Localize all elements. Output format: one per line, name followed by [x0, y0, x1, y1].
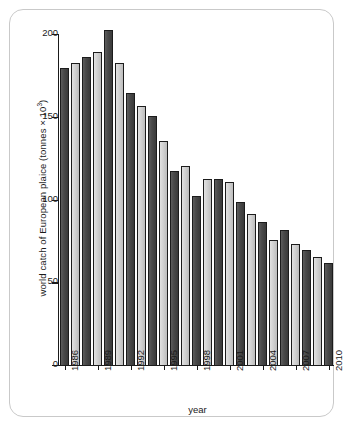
- x-tick-label: 2004: [267, 350, 278, 371]
- bar-chart: world catch of European plaice (tonnes ×…: [0, 0, 345, 435]
- bar: [159, 141, 168, 366]
- y-tick: 0: [20, 365, 58, 366]
- bars-container: [60, 20, 335, 366]
- bar: [104, 30, 113, 366]
- x-tick-label: 1989: [102, 350, 113, 371]
- bar: [203, 179, 212, 366]
- bar: [192, 196, 201, 366]
- bar: [170, 171, 179, 366]
- bar: [236, 202, 245, 366]
- x-tick-mark: [296, 366, 297, 370]
- y-tick: 150: [20, 117, 58, 118]
- y-axis-title-close: ): [37, 100, 48, 103]
- y-tick-mark: [52, 282, 58, 283]
- x-tick-label: 1998: [201, 350, 212, 371]
- bar: [93, 52, 102, 366]
- bar: [60, 68, 69, 366]
- y-tick-mark: [52, 365, 58, 366]
- bar: [137, 106, 146, 366]
- x-tick-label: 2007: [300, 350, 311, 371]
- y-tick-mark: [52, 117, 58, 118]
- x-tick-mark: [131, 366, 132, 370]
- bar: [291, 244, 300, 366]
- y-tick: 200: [20, 34, 58, 35]
- bar: [181, 166, 190, 366]
- y-tick-mark: [52, 34, 58, 35]
- y-tick: 50: [20, 282, 58, 283]
- x-tick-mark: [98, 366, 99, 370]
- bar: [324, 263, 333, 366]
- bar: [82, 57, 91, 366]
- x-axis-title: year: [60, 404, 335, 415]
- x-tick-mark: [164, 366, 165, 370]
- bar: [269, 240, 278, 366]
- x-tick-mark: [65, 366, 66, 370]
- y-tick-label: 50: [30, 276, 58, 286]
- bar: [115, 63, 124, 366]
- bar: [126, 93, 135, 366]
- bar: [280, 230, 289, 366]
- bar: [247, 214, 256, 366]
- x-tick-label: 2010: [333, 350, 344, 371]
- bar: [71, 63, 80, 366]
- bar: [148, 116, 157, 366]
- y-tick-label: 200: [30, 28, 58, 38]
- bar: [302, 250, 311, 366]
- x-tick-mark: [230, 366, 231, 370]
- x-tick-mark: [329, 366, 330, 370]
- bar: [313, 257, 322, 366]
- x-tick-label: 1992: [135, 350, 146, 371]
- bar: [214, 179, 223, 366]
- y-tick-mark: [52, 200, 58, 201]
- y-tick-label: 0: [30, 359, 58, 369]
- y-tick-label: 150: [30, 111, 58, 121]
- x-tick-mark: [263, 366, 264, 370]
- bar: [225, 182, 234, 366]
- x-tick-label: 2001: [234, 350, 245, 371]
- x-tick-label: 1995: [168, 350, 179, 371]
- y-axis-title-exponent: 3: [36, 103, 43, 107]
- y-tick-label: 100: [30, 194, 58, 204]
- y-tick: 100: [20, 200, 58, 201]
- bar: [258, 222, 267, 366]
- x-tick-mark: [197, 366, 198, 370]
- x-tick-label: 1986: [69, 350, 80, 371]
